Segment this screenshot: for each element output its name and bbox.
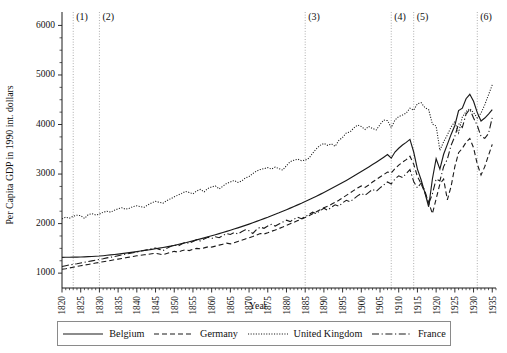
y-tick-label: 5000	[36, 69, 55, 79]
annotation-label-6: (6)	[480, 11, 492, 23]
legend-label: Belgium	[109, 328, 144, 339]
x-tick-label: 1920	[432, 296, 442, 315]
x-tick-label: 1890	[319, 296, 329, 315]
series-line-united-kingdom	[62, 85, 492, 219]
x-tick-label: 1885	[301, 296, 311, 315]
legend-item-germany[interactable]: Germany	[153, 328, 238, 339]
x-tick-label: 1935	[488, 296, 498, 315]
x-tick-label: 1930	[469, 296, 479, 315]
legend-label: Germany	[200, 328, 238, 339]
x-tick-label: 1880	[282, 296, 292, 315]
legend-swatch-solid	[62, 329, 104, 339]
x-tick-label: 1830	[95, 296, 105, 315]
legend-item-belgium[interactable]: Belgium	[62, 328, 144, 339]
series-line-belgium	[62, 94, 492, 257]
tick-label-group: 1000200030004000500060001820182518301835…	[36, 20, 498, 315]
legend-label: France	[418, 328, 446, 339]
y-tick-label: 6000	[36, 20, 55, 30]
y-tick-label: 1000	[36, 267, 55, 277]
x-tick-label: 1850	[170, 296, 180, 315]
x-tick-label: 1900	[357, 296, 367, 315]
x-tick-label: 1915	[413, 296, 423, 315]
annotation-marker-group	[73, 12, 477, 288]
annotation-label-4: (4)	[394, 11, 406, 23]
x-tick-label: 1820	[57, 296, 67, 315]
legend-swatch-dotted	[247, 329, 289, 339]
x-tick-label: 1845	[151, 296, 161, 315]
gdp-line-chart: 1000200030004000500060001820182518301835…	[0, 0, 507, 353]
legend-swatch-dashdot	[371, 329, 413, 339]
legend-item-france[interactable]: France	[371, 328, 446, 339]
legend-item-united-kingdom[interactable]: United Kingdom	[247, 328, 363, 339]
annotation-label-5: (5)	[417, 11, 429, 23]
x-tick-label: 1905	[375, 296, 385, 315]
x-tick-label: 1865	[226, 296, 236, 315]
annotation-label-2: (2)	[102, 11, 114, 23]
annotation-label-group: (1)(2)(3)(4)(5)(6)	[76, 11, 492, 23]
series-group	[62, 85, 492, 269]
chart-figure: 1000200030004000500060001820182518301835…	[0, 0, 507, 353]
x-tick-label: 1895	[338, 296, 348, 315]
x-tick-label: 1855	[188, 296, 198, 315]
annotation-label-3: (3)	[308, 11, 320, 23]
y-axis-title: Per Capita GDP in 1990 int. dollars	[4, 85, 15, 224]
legend-label: United Kingdom	[294, 328, 363, 339]
x-tick-label: 1860	[207, 296, 217, 315]
y-tick-label: 2000	[36, 218, 55, 228]
x-axis-title: Year	[249, 300, 268, 311]
x-tick-label: 1910	[394, 296, 404, 315]
x-tick-label: 1840	[132, 296, 142, 315]
axes-group	[58, 12, 496, 293]
chart-legend: BelgiumGermanyUnited KingdomFrance	[57, 321, 451, 346]
legend-swatch-dashed	[153, 329, 195, 339]
x-tick-label: 1835	[114, 296, 124, 315]
x-tick-label: 1925	[450, 296, 460, 315]
y-tick-label: 4000	[36, 119, 55, 129]
y-tick-label: 3000	[36, 168, 55, 178]
series-line-france	[62, 109, 492, 266]
x-tick-label: 1825	[76, 296, 86, 315]
annotation-label-1: (1)	[76, 11, 88, 23]
